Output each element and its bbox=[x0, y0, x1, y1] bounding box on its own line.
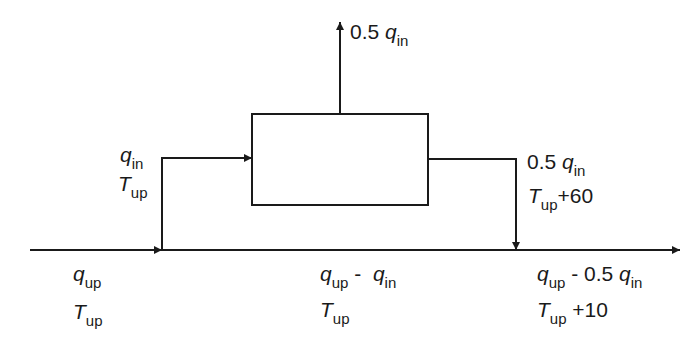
var: q bbox=[385, 20, 397, 43]
top-outlet-label: 0.5 qin bbox=[350, 20, 408, 53]
right-outlet-arrow bbox=[428, 159, 516, 250]
right-outlet-flow-label: 0.5 qin bbox=[527, 150, 585, 183]
inlet-branch-arrow bbox=[162, 158, 252, 250]
downstream-flow-label: qup - 0.5 qin bbox=[537, 262, 642, 295]
downstream-temp-label: Tup +10 bbox=[537, 298, 608, 331]
middle-flow-label: qup - qin bbox=[320, 262, 396, 295]
process-box bbox=[252, 114, 428, 205]
upstream-flow-label: qup bbox=[73, 262, 101, 295]
inlet-temp-label: Tup bbox=[118, 172, 148, 205]
upstream-temp-label: Tup bbox=[73, 300, 103, 333]
coef: 0.5 bbox=[350, 20, 379, 43]
sub: in bbox=[397, 32, 409, 49]
right-outlet-temp-label: Tup+60 bbox=[528, 184, 593, 217]
middle-temp-label: Tup bbox=[320, 298, 350, 331]
